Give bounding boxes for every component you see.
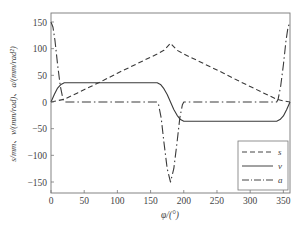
x-axis-label: φ/(°) — [161, 210, 179, 221]
x-tick-label: 350 — [276, 196, 291, 206]
y-tick-label: 150 — [33, 18, 48, 28]
y-tick-label: −50 — [32, 124, 47, 134]
chart: 050100150200250300350 −150−100−500501001… — [0, 0, 302, 236]
x-tick-label: 300 — [243, 196, 258, 206]
x-tick-label: 0 — [49, 196, 54, 206]
y-tick-label: 50 — [38, 71, 48, 81]
y-axis-ticks: −150−100−50050100150 — [27, 18, 54, 188]
y-tick-label: 100 — [33, 44, 48, 54]
legend-label-v: v — [278, 161, 282, 171]
x-tick-label: 250 — [210, 196, 225, 206]
y-tick-label: −100 — [27, 151, 47, 161]
x-tick-label: 50 — [79, 196, 89, 206]
legend: s v a — [238, 141, 288, 190]
y-axis-label: s/mm、v/(mm/rad)、a/(mm/rad²) — [8, 46, 18, 162]
x-axis-ticks: 050100150200250300350 — [49, 190, 291, 206]
y-tick-label: −150 — [27, 178, 47, 188]
legend-label-s: s — [278, 147, 282, 157]
legend-label-a: a — [278, 175, 283, 185]
series-line-s — [51, 43, 290, 102]
y-tick-label: 0 — [42, 98, 47, 108]
x-tick-label: 150 — [143, 196, 158, 206]
x-tick-label: 100 — [110, 196, 125, 206]
x-tick-label: 200 — [177, 196, 192, 206]
